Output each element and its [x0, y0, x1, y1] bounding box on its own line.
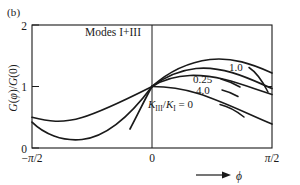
leader-ratio-4: [222, 90, 238, 97]
chart-svg: 2 1 0 G(φ)/G(0) −π/2 0 π/2 ϕ Modes I+III: [0, 0, 300, 185]
figure-panel: (b) 2 1 0 G(φ)/G(0) −π/2 0 π/2: [0, 0, 300, 185]
x-tick-labels: −π/2 0 π/2: [21, 152, 279, 164]
x-tick-label-neg-pi-2: −π/2: [21, 152, 42, 164]
label-leader-lines: [220, 68, 268, 118]
y-tick-labels: 2 1 0: [21, 20, 27, 155]
x-axis-arrow-head: [222, 172, 231, 179]
y-tick-label-1: 1: [21, 81, 27, 93]
curve-label-ratio-0: KIII/KI = 0: [147, 98, 193, 113]
panel-label: (b): [7, 6, 20, 18]
y-axis-title: G(φ)/G(0): [7, 64, 20, 111]
y-tick-label-2: 2: [21, 20, 27, 32]
x-tick-label-zero: 0: [149, 152, 155, 164]
x-axis-title: ϕ: [236, 170, 242, 183]
plot-note-modes: Modes I+III: [85, 26, 141, 38]
x-axis-arrow-group: ϕ: [196, 170, 242, 183]
x-tick-label-pi-2: π/2: [265, 152, 280, 164]
curve-label-ratio-1: 1.0: [229, 61, 243, 73]
curve-left-branch-upper: [32, 87, 152, 122]
curve-label-ratio-4: 4.0: [196, 84, 210, 96]
